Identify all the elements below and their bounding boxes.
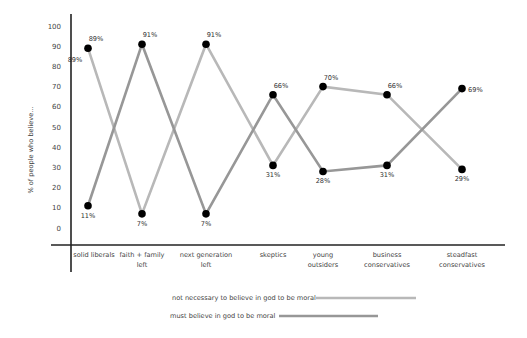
y-tick-label: 60 [52,103,61,111]
series-line-not-necessary [88,44,462,214]
x-category-label: faith + family [119,251,164,259]
y-tick-label: 100 [48,23,61,31]
data-point [269,91,277,99]
legend-label-not-necessary: not necessary to believe in god to be mo… [172,294,316,302]
x-category-label: conservatives [364,261,410,269]
data-point [269,162,277,170]
data-label: 28% [316,177,331,185]
data-label: 7% [137,220,147,228]
y-axis-ticks: 0102030405060708090100 [48,23,61,233]
legend: not necessary to believe in god to be mo… [170,294,416,320]
y-tick-label: 70 [52,83,61,91]
data-label: 66% [274,82,289,90]
data-label: 91% [207,31,222,39]
data-point [458,85,466,93]
y-tick-label: 50 [52,124,61,132]
data-label: 66% [388,82,403,90]
data-label: 29% [455,175,470,183]
x-category-label: outsiders [308,261,339,269]
x-category-label: skeptics [260,251,287,259]
series-line-must-believe [88,44,462,214]
legend-label-must-believe: must believe in god to be moral [170,312,276,320]
data-label: 11% [81,212,96,220]
y-tick-label: 10 [52,204,61,212]
data-label: 89% [89,35,104,43]
x-category-label: next generation [180,251,233,259]
y-tick-label: 0 [57,225,61,233]
data-label: 31% [380,171,395,179]
y-tick-label: 20 [52,184,61,192]
data-point [202,40,210,48]
x-category-label: left [201,261,212,269]
data-point [319,83,327,91]
x-category-label: solid liberals [73,251,115,259]
x-category-label: business [373,251,402,259]
y-tick-label: 40 [52,144,61,152]
data-label: 69% [468,86,483,94]
x-category-label: young [313,251,333,259]
data-label: 70% [324,74,339,82]
data-label: 7% [201,220,211,228]
data-label: 31% [266,171,281,179]
line-chart: 0102030405060708090100 % of people who b… [0,0,527,338]
y-tick-label: 30 [52,164,61,172]
data-point [84,202,92,210]
x-category-label: left [137,261,148,269]
data-points [84,40,466,217]
y-tick-label: 80 [52,63,61,71]
y-tick-label: 90 [52,43,61,51]
x-category-label: conservatives [439,261,485,269]
data-point [319,168,327,176]
data-point [84,44,92,52]
data-point [202,210,210,218]
x-category-label: steadfast [447,251,478,259]
y-axis-label: % of people who believe... [27,106,35,193]
data-point [383,162,391,170]
data-label: 91% [143,31,158,39]
data-point [458,166,466,174]
data-point [383,91,391,99]
data-label-extra: 89% [68,56,83,64]
x-axis-categories: solid liberalsfaith + familyleftnext gen… [73,251,485,269]
data-point [138,210,146,218]
series-lines [88,44,462,214]
data-point [138,40,146,48]
